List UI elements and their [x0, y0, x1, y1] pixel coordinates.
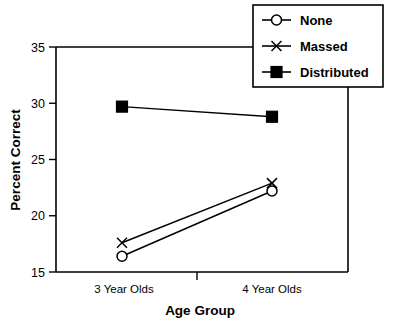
- chart-legend: None Massed Distributed: [253, 5, 383, 87]
- series-distributed: [117, 101, 278, 122]
- x-axis-title: Age Group: [165, 303, 235, 318]
- data-point-none-3-year-olds: [117, 251, 127, 261]
- series-none: [117, 186, 277, 261]
- x-category-label-4-year-olds: 4 Year Olds: [242, 283, 302, 295]
- y-tick-label-30: 30: [31, 97, 45, 111]
- y-tick-label-15: 15: [31, 266, 45, 280]
- x-category-label-3-year-olds: 3 Year Olds: [94, 283, 154, 295]
- legend-label-massed: Massed: [300, 39, 348, 54]
- legend-label-none: None: [300, 13, 333, 28]
- percent-correct-line-chart: 15 20 25 30 35 Percent Correct 3 Year Ol…: [0, 0, 394, 330]
- y-tick-label-25: 25: [31, 153, 45, 167]
- legend-label-distributed: Distributed: [300, 65, 369, 80]
- data-point-distributed-4-year-olds: [267, 111, 278, 122]
- y-tick-label-35: 35: [31, 41, 45, 55]
- data-point-distributed-3-year-olds: [117, 101, 128, 112]
- filled-square-icon: [271, 67, 282, 78]
- y-axis-title: Percent Correct: [8, 109, 23, 211]
- legend-entry-distributed[interactable]: Distributed: [262, 65, 369, 80]
- data-point-none-4-year-olds: [267, 186, 277, 196]
- y-tick-label-20: 20: [31, 209, 45, 223]
- data-point-massed-3-year-olds: [117, 238, 127, 248]
- open-circle-icon: [272, 15, 282, 25]
- series-line-distributed: [122, 107, 272, 117]
- chart-container: 15 20 25 30 35 Percent Correct 3 Year Ol…: [0, 0, 394, 330]
- series-line-massed: [122, 183, 272, 243]
- y-tick-marks: [49, 47, 56, 272]
- series-line-none: [122, 191, 272, 256]
- series-massed: [117, 178, 277, 248]
